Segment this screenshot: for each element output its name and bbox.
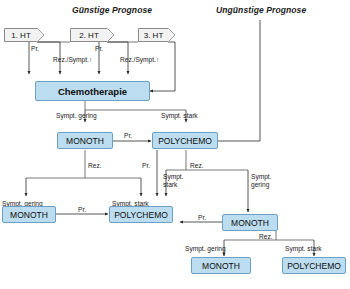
- edge-label-pr-1: Pr.: [31, 45, 39, 53]
- node-polychemo-level3[interactable]: POLYCHEMO: [109, 206, 173, 223]
- edge-label-pr-level3: Pr.: [78, 206, 86, 214]
- pentagon-tip-icon: [107, 28, 114, 42]
- node-polychemo-level2-label: POLYCHEMO: [158, 136, 212, 146]
- edge-label-rez-level3-right: Rez.: [259, 233, 273, 241]
- node-monoth-level3-left[interactable]: MONOTH: [2, 206, 56, 223]
- edge-label-sympt-stark-l2: Sympt. stark: [161, 112, 198, 120]
- header-unfavorable-prognosis: Ungünstige Prognose: [216, 5, 306, 15]
- node-monoth-level3-left-label: MONOTH: [10, 210, 48, 220]
- stage-node-1ht-label: 1. HT: [11, 31, 31, 40]
- edge-label-sympt-gering-l2: Sympt. gering: [56, 112, 97, 120]
- node-polychemo-level4-label: POLYCHEMO: [287, 261, 341, 271]
- flowchart-diagram: Günstige Prognose Ungünstige Prognose 1.…: [0, 0, 350, 289]
- stage-node-3ht[interactable]: 3. HT: [138, 28, 168, 42]
- node-polychemo-level3-label: POLYCHEMO: [114, 210, 168, 220]
- node-chemotherapie-label: Chemotherapie: [58, 86, 127, 97]
- edge-label-rez-sympt-1: Rez./Sympt.↑: [53, 56, 92, 64]
- node-polychemo-level4[interactable]: POLYCHEMO: [282, 257, 346, 274]
- edge-label-rez-level2: Rez.: [88, 162, 102, 170]
- stage-node-1ht[interactable]: 1. HT: [4, 28, 37, 42]
- node-monoth-level2-label: MONOTH: [66, 136, 104, 146]
- node-monoth-level4[interactable]: MONOTH: [191, 257, 251, 274]
- stage-node-2ht-label: 2. HT: [79, 31, 99, 40]
- edge-label-sympt-stark-wrapped: Sympt. stark: [163, 173, 189, 188]
- edge-label-sympt-stark-r4: Sympt. stark: [285, 245, 322, 253]
- edge-label-pr-2: Pr.: [95, 45, 103, 53]
- edge-label-sympt-gering-l4: Sympt. gering: [185, 245, 226, 253]
- stage-node-2ht[interactable]: 2. HT: [70, 28, 107, 42]
- node-chemotherapie[interactable]: Chemotherapie: [35, 81, 150, 101]
- stage-node-3ht-label: 3. HT: [144, 31, 164, 40]
- edge-label-sympt-gering-wrapped: Sympt. gering: [251, 173, 277, 188]
- edge-label-pr-polychemo: Pr.: [142, 162, 150, 170]
- edge-label-pr-level3-right: Pr.: [198, 214, 206, 222]
- edge-label-rez-sympt-2: Rez./Sympt.↑: [120, 56, 159, 64]
- header-favorable-prognosis: Günstige Prognose: [72, 5, 152, 15]
- pentagon-tip-icon: [37, 28, 44, 42]
- pentagon-tip-icon: [168, 28, 175, 42]
- node-monoth-level4-label: MONOTH: [202, 261, 240, 271]
- edge-label-rez-polychemo: Rez.: [190, 162, 204, 170]
- node-monoth-level3-right-label: MONOTH: [231, 218, 269, 228]
- edge-label-pr-level2: Pr.: [124, 132, 132, 140]
- node-polychemo-level2[interactable]: POLYCHEMO: [152, 132, 218, 149]
- node-monoth-level3-right[interactable]: MONOTH: [222, 214, 278, 231]
- node-monoth-level2[interactable]: MONOTH: [57, 132, 113, 149]
